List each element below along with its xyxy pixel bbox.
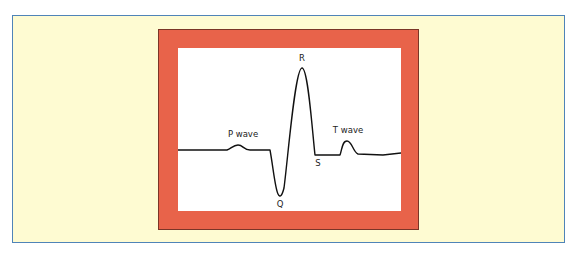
p-wave-label: P wave xyxy=(228,129,258,139)
ecg-trace-svg: P wave R Q S T wave xyxy=(178,48,401,211)
t-wave-label: T wave xyxy=(332,125,363,135)
ecg-trace xyxy=(178,68,401,196)
r-label: R xyxy=(299,53,305,63)
q-label: Q xyxy=(277,199,284,209)
s-label: S xyxy=(315,158,320,168)
ecg-plot-area: P wave R Q S T wave xyxy=(178,48,401,211)
